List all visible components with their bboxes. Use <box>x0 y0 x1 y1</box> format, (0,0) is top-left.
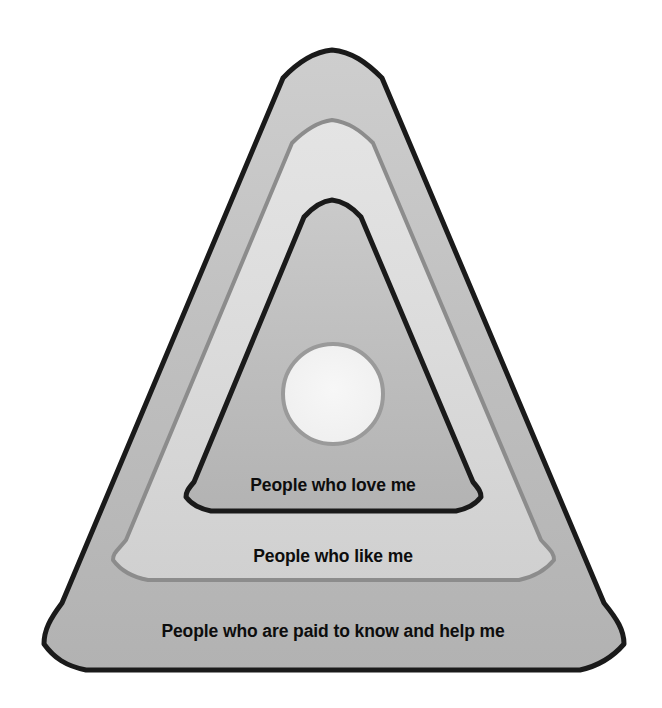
ring-label-middle: People who like me <box>253 546 413 566</box>
concentric-triangle-diagram: People who love me People who like me Pe… <box>0 0 662 708</box>
diagram-canvas: People who love me People who like me Pe… <box>0 0 662 708</box>
self-core-circle <box>283 344 383 444</box>
ring-label-outer: People who are paid to know and help me <box>161 621 505 641</box>
ring-label-inner: People who love me <box>250 475 416 495</box>
